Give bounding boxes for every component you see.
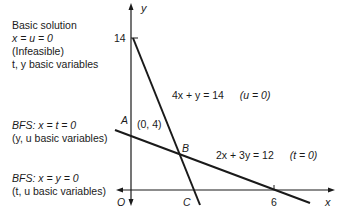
x-tick-label: 6 [271, 196, 277, 208]
constraint-equation-t: 2x + 3y = 12 [216, 149, 274, 161]
x-axis-left-arrow-icon [116, 188, 123, 193]
point-a-label: A [121, 114, 128, 126]
annotation-line: x = u = 0 [12, 32, 98, 45]
y-axis-up-arrow-icon [129, 3, 134, 10]
constraint-label-u: 4x + y = 14 (u = 0) [172, 89, 270, 101]
lp-feasible-region-diagram: Basic solution x = u = 0 (Infeasible) t,… [0, 0, 344, 222]
annotation-line: t, y basic variables [12, 58, 98, 71]
constraint-equation-u: 4x + y = 14 [172, 89, 224, 101]
annotation-bfs-a: BFS: x = t = 0 (y, u basic variables) [12, 119, 108, 145]
x-axis-label: x [325, 196, 331, 208]
annotation-line: Basic solution [12, 19, 98, 32]
constraint-slack-t: (t = 0) [290, 149, 318, 161]
x-axis [116, 185, 335, 193]
annotation-line: (Infeasible) [12, 45, 98, 58]
y-axis-down-arrow-icon [129, 199, 134, 206]
annotation-line: (y, u basic variables) [12, 132, 108, 145]
constraint-slack-u: (u = 0) [240, 89, 271, 101]
annotation-infeasible-basic-solution: Basic solution x = u = 0 (Infeasible) t,… [12, 19, 98, 71]
y-axis [129, 3, 139, 206]
y-axis-label: y [141, 2, 147, 14]
constraint-label-t: 2x + 3y = 12 (t = 0) [216, 149, 317, 161]
annotation-line: BFS: x = t = 0 [12, 119, 108, 132]
constraint-line-t [115, 130, 310, 203]
point-b-label: B [182, 142, 189, 154]
annotation-line: (t, u basic variables) [12, 185, 106, 198]
y-tick-label: 14 [114, 32, 126, 44]
annotation-line: BFS: x = y = 0 [12, 172, 106, 185]
annotation-bfs-o: BFS: x = y = 0 (t, u basic variables) [12, 172, 106, 198]
x-axis-right-arrow-icon [328, 188, 335, 193]
origin-label: O [117, 196, 125, 208]
point-c-label: C [183, 196, 191, 208]
point-a-coordinates: (0, 4) [137, 118, 162, 130]
